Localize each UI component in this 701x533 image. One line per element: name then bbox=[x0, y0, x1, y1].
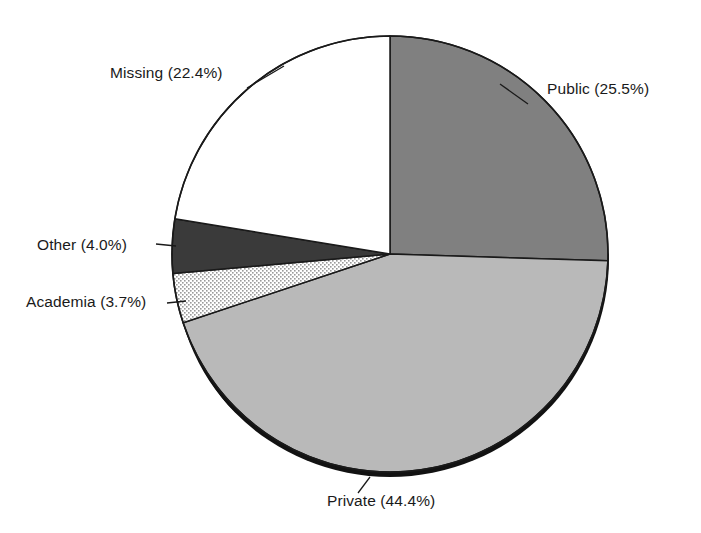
slice-label-public: Public (25.5%) bbox=[547, 80, 649, 98]
slice-label-missing: Missing (22.4%) bbox=[110, 64, 223, 82]
slice-label-academia: Academia (3.7%) bbox=[26, 293, 146, 311]
slice-label-private: Private (44.4%) bbox=[327, 492, 435, 510]
leader-line-private bbox=[358, 477, 370, 493]
pie-slices-group bbox=[172, 36, 608, 472]
pie-slice-public[interactable] bbox=[390, 36, 608, 261]
pie-chart-figure: Missing (22.4%) Public (25.5%) Other (4.… bbox=[0, 0, 701, 533]
slice-label-other: Other (4.0%) bbox=[37, 236, 127, 254]
